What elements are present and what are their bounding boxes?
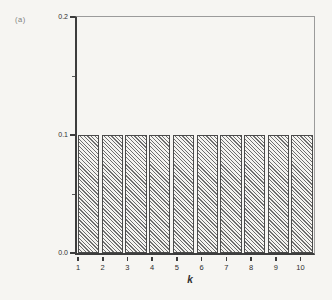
plot-area: Pr(Z=k) 0.00.10.212345678910 [75, 16, 315, 255]
x-axis-title: k [183, 274, 197, 285]
bar-k4 [149, 135, 170, 253]
bar-k6 [197, 135, 218, 253]
bar-k8 [244, 135, 265, 253]
x-tick-label: 5 [169, 263, 185, 272]
x-tick-mark [127, 257, 129, 261]
y-tick-label: 0.1 [46, 131, 68, 139]
x-tick-label: 7 [218, 263, 234, 272]
bar-k9 [268, 135, 289, 253]
y-minor-tick-mark [72, 194, 75, 195]
y-tick-mark [70, 16, 75, 18]
y-tick-label: 0.0 [46, 249, 68, 257]
x-tick-label: 3 [119, 263, 135, 272]
x-tick-label: 1 [70, 263, 86, 272]
y-tick-label: 0.2 [46, 13, 68, 21]
y-tick-mark [70, 252, 75, 254]
x-tick-mark [250, 257, 252, 261]
bar-k10 [291, 135, 312, 253]
bar-k1 [78, 135, 99, 253]
x-tick-mark [102, 257, 104, 261]
x-tick-label: 6 [194, 263, 210, 272]
x-tick-mark [77, 257, 79, 261]
y-tick-mark [70, 134, 75, 136]
x-tick-label: 2 [95, 263, 111, 272]
bar-k2 [102, 135, 123, 253]
x-tick-mark [226, 257, 228, 261]
x-tick-label: 8 [243, 263, 259, 272]
x-tick-mark [275, 257, 277, 261]
x-tick-mark [151, 257, 153, 261]
bar-k7 [220, 135, 241, 253]
x-tick-mark [176, 257, 178, 261]
x-tick-label: 4 [144, 263, 160, 272]
bar-k3 [125, 135, 146, 253]
x-tick-mark [300, 257, 302, 261]
figure-panel: (a) Pr(Z=k) 0.00.10.212345678910 k [0, 0, 332, 300]
x-tick-label: 9 [268, 263, 284, 272]
panel-label: (a) [15, 15, 26, 24]
bar-k5 [173, 135, 194, 253]
y-minor-tick-mark [72, 76, 75, 77]
x-tick-label: 10 [293, 263, 309, 272]
x-tick-mark [201, 257, 203, 261]
